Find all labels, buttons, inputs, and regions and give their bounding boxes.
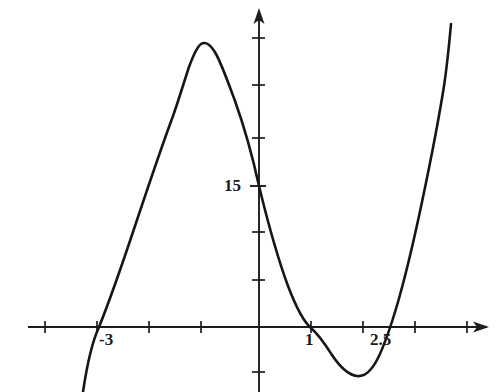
y-tick-label-15: 15 (224, 177, 241, 194)
x-tick-label-neg3: -3 (99, 331, 113, 348)
cubic-graph-svg (0, 0, 498, 392)
cubic-curve (83, 24, 451, 392)
x-tick-label-1: 1 (305, 331, 314, 348)
x-tick-label-2point5: 2.5 (370, 331, 391, 348)
graph-figure: -3 1 2.5 15 (0, 0, 498, 392)
